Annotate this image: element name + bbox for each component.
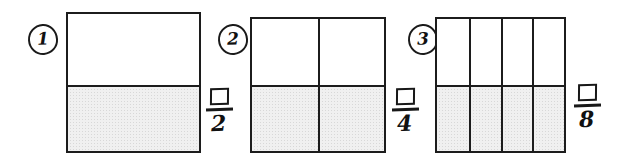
cell-3-4 [532, 19, 564, 85]
cell-2-4 [318, 85, 384, 151]
cell-2-3 [252, 85, 318, 151]
denominator-2: 4 [397, 112, 413, 136]
cell-2-1 [252, 19, 318, 85]
cell-1-1 [68, 14, 199, 85]
problem-number-1-label: 1 [37, 30, 49, 47]
fraction-answer-1: 2 [204, 88, 234, 135]
cell-3-5 [437, 85, 469, 151]
fraction-worksheet: 1 2 2 4 3 8 [0, 0, 625, 164]
cell-3-2 [469, 19, 501, 85]
problem-number-1: 1 [27, 23, 59, 56]
denominator-1: 2 [211, 112, 227, 136]
numerator-answer-box-2[interactable] [395, 88, 414, 106]
fraction-shape-3 [435, 17, 566, 153]
numerator-answer-box-1[interactable] [209, 88, 228, 106]
cell-3-6 [469, 85, 501, 151]
fraction-answer-3: 8 [572, 84, 602, 131]
fraction-shape-2 [250, 17, 386, 153]
cell-3-7 [501, 85, 533, 151]
fraction-shape-1 [66, 12, 201, 153]
problem-number-2: 2 [217, 23, 249, 56]
cell-3-3 [501, 19, 533, 85]
fraction-answer-2: 4 [390, 88, 420, 135]
denominator-3: 8 [579, 108, 595, 132]
cell-1-2 [68, 85, 199, 151]
cell-3-8 [532, 85, 564, 151]
cell-3-1 [437, 19, 469, 85]
cell-2-2 [318, 19, 384, 85]
numerator-answer-box-3[interactable] [577, 84, 596, 102]
problem-number-3-label: 3 [417, 30, 429, 47]
problem-number-2-label: 2 [227, 30, 239, 47]
